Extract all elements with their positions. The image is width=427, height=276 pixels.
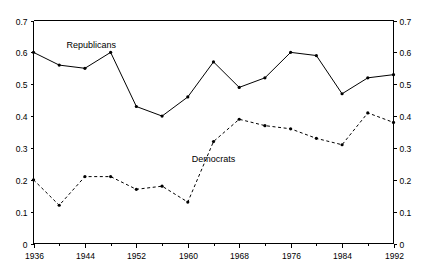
data-point-democrats xyxy=(340,143,343,146)
data-point-republicans xyxy=(135,105,138,108)
data-point-democrats xyxy=(58,204,61,207)
data-point-republicans xyxy=(109,51,112,54)
data-point-republicans xyxy=(83,67,86,70)
x-tick-label: 1976 xyxy=(282,251,301,261)
data-point-democrats xyxy=(238,118,241,121)
series-layer xyxy=(32,51,395,207)
data-point-democrats xyxy=(212,140,215,143)
data-point-republicans xyxy=(32,51,35,54)
y-tick-label-right: 0.2 xyxy=(400,176,412,186)
data-point-democrats xyxy=(160,185,163,188)
data-point-republicans xyxy=(212,60,215,63)
data-point-democrats xyxy=(135,188,138,191)
y-axis-left-ticks: 00.10.20.30.40.50.60.7 xyxy=(16,17,34,250)
y-tick-label-left: 0.7 xyxy=(16,17,28,27)
data-point-republicans xyxy=(289,51,292,54)
y-tick-label-right: 0.4 xyxy=(400,112,412,122)
data-point-democrats xyxy=(186,200,189,203)
data-point-republicans xyxy=(238,86,241,89)
data-point-republicans xyxy=(186,95,189,98)
y-tick-label-right: 0 xyxy=(400,240,405,250)
data-point-republicans xyxy=(366,76,369,79)
x-tick-label: 1992 xyxy=(385,251,404,261)
line-chart: 00.10.20.30.40.50.60.7 00.10.20.30.40.50… xyxy=(0,0,427,276)
data-point-republicans xyxy=(160,114,163,117)
y-axis-right-ticks: 00.10.20.30.40.50.60.7 xyxy=(394,17,412,250)
data-point-republicans xyxy=(263,76,266,79)
x-tick-label: 1960 xyxy=(179,251,198,261)
x-tick-label: 1944 xyxy=(76,251,95,261)
y-tick-label-right: 0.6 xyxy=(400,48,412,58)
series-annotation-republicans: Republicans xyxy=(67,40,117,50)
y-tick-label-right: 0.3 xyxy=(400,144,412,154)
y-tick-label-right: 0.1 xyxy=(400,208,412,218)
y-tick-label-left: 0.1 xyxy=(16,208,28,218)
data-point-republicans xyxy=(58,64,61,67)
x-tick-label: 1952 xyxy=(127,251,146,261)
x-axis-ticks: 19361944195219601968197619841992 xyxy=(25,244,404,261)
data-point-democrats xyxy=(366,111,369,114)
y-tick-label-right: 0.7 xyxy=(400,17,412,27)
data-point-republicans xyxy=(315,54,318,57)
axes-frame xyxy=(34,21,394,244)
y-tick-label-left: 0 xyxy=(23,240,28,250)
series-annotation-democrats: Democrats xyxy=(192,154,236,164)
y-tick-label-left: 0.2 xyxy=(16,176,28,186)
chart-container: 00.10.20.30.40.50.60.7 00.10.20.30.40.50… xyxy=(0,0,427,276)
data-point-democrats xyxy=(83,175,86,178)
data-point-democrats xyxy=(392,121,395,124)
data-point-republicans xyxy=(340,92,343,95)
x-tick-label: 1936 xyxy=(25,251,44,261)
y-tick-label-left: 0.4 xyxy=(16,112,28,122)
y-tick-label-left: 0.6 xyxy=(16,48,28,58)
y-tick-label-right: 0.5 xyxy=(400,80,412,90)
data-point-democrats xyxy=(109,175,112,178)
y-tick-label-left: 0.3 xyxy=(16,144,28,154)
x-tick-label: 1968 xyxy=(230,251,249,261)
series-annotations: RepublicansDemocrats xyxy=(67,40,236,165)
y-tick-label-left: 0.5 xyxy=(16,80,28,90)
data-point-democrats xyxy=(289,127,292,130)
data-point-democrats xyxy=(32,178,35,181)
data-point-democrats xyxy=(315,137,318,140)
x-tick-label: 1984 xyxy=(333,251,352,261)
data-point-democrats xyxy=(263,124,266,127)
data-point-republicans xyxy=(392,73,395,76)
